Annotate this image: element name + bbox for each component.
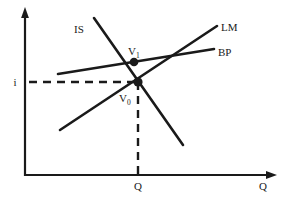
y-axis-tick-label-i: i: [13, 76, 16, 88]
horizontal-axis-arrow-icon: [266, 171, 277, 179]
point-v0-label-subscript: 0: [127, 98, 131, 107]
lm-curve-label: LM: [221, 21, 238, 33]
is-curve-label: IS: [74, 23, 84, 35]
bp-curve-label: BP: [218, 46, 231, 58]
point-v1-label-subscript: 1: [136, 51, 140, 60]
diagram-canvas: IS LM BP V1 V0 i Q Q: [0, 0, 286, 202]
point-v0-dot[interactable]: [133, 77, 142, 86]
point-v0-label: V0: [119, 92, 131, 107]
point-v0-label-base: V: [119, 92, 127, 104]
axes-group: [21, 7, 277, 179]
x-axis-title: Q: [259, 180, 267, 192]
point-v1-label-base: V: [128, 45, 136, 57]
islm-bp-diagram: IS LM BP V1 V0 i Q Q: [0, 0, 286, 202]
x-axis-tick-label-q: Q: [134, 180, 142, 192]
vertical-axis-arrow-icon: [21, 7, 29, 18]
